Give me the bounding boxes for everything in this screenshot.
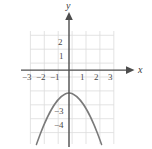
x-axis-label: x <box>138 65 142 75</box>
x-tick-label-1: 1 <box>80 73 85 82</box>
y-axis <box>65 12 73 147</box>
y-tick-label-2: 2 <box>58 38 63 47</box>
y-tick-label--4: −4 <box>54 121 64 130</box>
graph-figure: y x −3 −2 −1 1 2 3 2 1 −3 −4 <box>0 0 152 149</box>
y-tick-label-1: 1 <box>59 52 64 61</box>
y-axis-label: y <box>66 1 70 11</box>
x-tick-label--1: −1 <box>50 73 60 82</box>
x-tick-label-3: 3 <box>108 73 113 82</box>
x-tick-label--3: −3 <box>22 73 32 82</box>
x-tick-label-2: 2 <box>94 73 99 82</box>
y-tick-label--3: −3 <box>54 107 64 116</box>
x-tick-label--2: −2 <box>36 73 46 82</box>
